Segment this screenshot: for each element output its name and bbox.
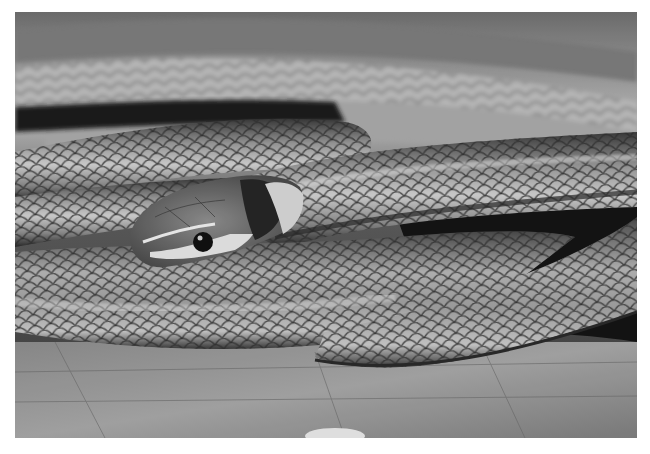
snake-illustration <box>15 12 637 438</box>
snake-photograph: Black and white photograph of a coiled s… <box>15 12 637 438</box>
